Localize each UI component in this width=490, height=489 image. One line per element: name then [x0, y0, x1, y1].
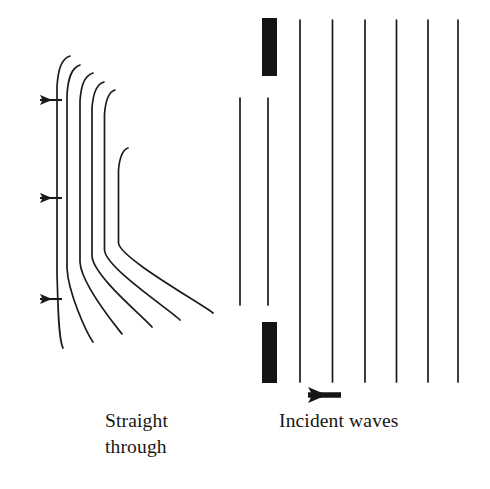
lower-barrier	[262, 322, 277, 383]
label-straight-through: Straight through	[105, 408, 168, 460]
diagram-background	[0, 0, 490, 489]
diffraction-diagram: Straight through Incident waves	[0, 0, 490, 489]
diagram-canvas	[0, 0, 490, 489]
upper-barrier	[262, 18, 277, 76]
label-incident-waves: Incident waves	[279, 408, 399, 434]
